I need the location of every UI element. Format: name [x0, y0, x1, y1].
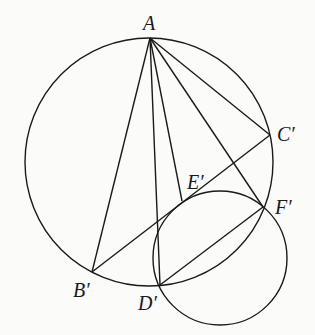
label-a: A	[141, 12, 156, 34]
segment-d-f	[160, 207, 263, 285]
label-c: C′	[277, 123, 295, 145]
label-d: D′	[137, 292, 157, 314]
small-circle	[153, 191, 287, 325]
label-e: E′	[186, 171, 204, 193]
label-b: B′	[73, 279, 90, 301]
segment-b-c	[92, 135, 270, 272]
geometry-diagram: A C′ E′ F′ B′ D′	[0, 0, 315, 335]
segment-a-b	[92, 38, 150, 272]
segment-a-c	[150, 38, 270, 135]
segment-a-d	[150, 38, 160, 285]
label-f: F′	[274, 196, 292, 218]
